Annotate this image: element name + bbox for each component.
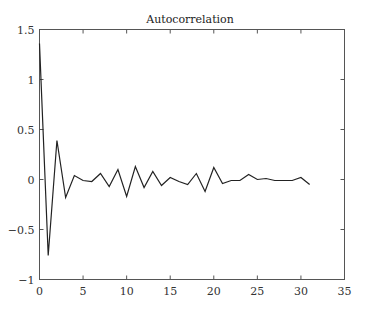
autocorrelation-line bbox=[40, 44, 310, 256]
y-axis: −1−0.500.511.5 bbox=[8, 24, 345, 287]
x-tick-label: 15 bbox=[163, 285, 177, 298]
x-tick-label: 30 bbox=[294, 285, 308, 298]
x-axis: 05101520253035 bbox=[36, 30, 352, 298]
plot-frame bbox=[40, 30, 345, 280]
y-tick-label: −0.5 bbox=[8, 224, 35, 237]
x-tick-label: 5 bbox=[80, 285, 87, 298]
y-tick-label: 0.5 bbox=[17, 124, 35, 137]
y-tick-label: 1.5 bbox=[17, 24, 35, 37]
y-tick-label: 0 bbox=[28, 174, 35, 187]
x-tick-label: 35 bbox=[338, 285, 352, 298]
y-tick-label: −1 bbox=[18, 274, 34, 287]
x-tick-label: 25 bbox=[250, 285, 264, 298]
chart-title: Autocorrelation bbox=[145, 13, 234, 26]
x-tick-label: 10 bbox=[120, 285, 134, 298]
y-tick-label: 1 bbox=[28, 74, 35, 87]
autocorrelation-chart: Autocorrelation 05101520253035 −1−0.500.… bbox=[0, 0, 367, 315]
x-tick-label: 0 bbox=[36, 285, 43, 298]
x-tick-label: 20 bbox=[207, 285, 221, 298]
